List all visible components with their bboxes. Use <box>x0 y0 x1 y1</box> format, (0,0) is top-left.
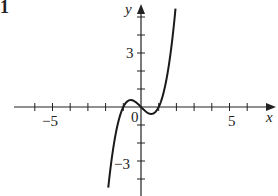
chart-canvas <box>0 0 278 196</box>
y-axis <box>137 4 145 196</box>
y-axis-label: y <box>125 2 132 17</box>
x-tick-label-5: 5 <box>228 114 236 129</box>
x-tick-label-neg5: −5 <box>42 114 58 129</box>
x-axis-label: x <box>266 110 273 125</box>
y-axis-arrow-icon <box>137 4 145 14</box>
y-tick-label-neg3: −3 <box>114 157 130 172</box>
y-tick-label-3: 3 <box>126 46 134 61</box>
origin-label: 0 <box>131 110 139 125</box>
